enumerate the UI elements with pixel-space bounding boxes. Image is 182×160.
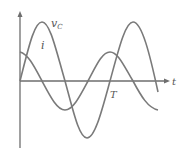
vc-label: vC [51,17,63,31]
waveform-diagram: vC i T t [0,0,182,160]
period-label: T [110,89,118,100]
x-axis-label: t [172,76,177,87]
x-axis-arrow-icon [164,79,170,84]
y-axis-arrow-icon [18,11,23,17]
i-label: i [41,39,45,52]
